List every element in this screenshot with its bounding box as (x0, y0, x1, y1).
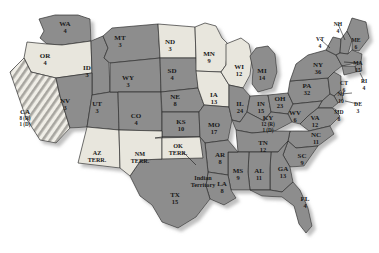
state-votes-PA: 32 (304, 89, 310, 96)
state-votes-NY: 36 (315, 68, 322, 75)
state-NE (161, 88, 204, 112)
state-label-KY: KY12 (R)1 (D) (261, 114, 275, 134)
state-abbr-DE: DE (354, 101, 362, 107)
state-SD (160, 58, 198, 92)
state-votes-MA: 15 (355, 67, 361, 73)
state-votes-RI: 4 (363, 85, 366, 91)
state-votes-DE: 3 (357, 108, 360, 114)
state-votes-NH: 4 (337, 28, 340, 34)
state-MT (103, 24, 160, 63)
state-label-IA: IA13 (210, 91, 218, 105)
state-votes-NC: 11 (313, 138, 319, 145)
state-votes-SC: 9 (300, 159, 303, 166)
us-map-svg: WA4OR4CA8 (R)1 (D)ID3NV3UT3MT3WY3CO4ND3S… (0, 0, 379, 253)
state-votes-IN: 15 (258, 107, 264, 114)
territory-line1-OK: OK (173, 142, 183, 149)
state-ND (158, 24, 196, 58)
state-label-IN: IN15 (257, 100, 265, 114)
territory-line2-AZ: TERR. (88, 156, 107, 163)
state-WY (110, 58, 161, 92)
state-votes-MD: 8 (338, 116, 341, 122)
state-votes-ID: 3 (85, 71, 88, 78)
state-votes-GA: 13 (280, 172, 286, 179)
state-votes-IA: 13 (211, 98, 217, 105)
state-votes-TN: 12 (260, 146, 266, 153)
state-votes-TX: 15 (172, 198, 178, 205)
state-votes-AR: 8 (218, 158, 221, 165)
state-abbr-CT: CT (340, 80, 348, 86)
state-votes-UT: 3 (95, 107, 98, 114)
territory-line1-NM: NM (135, 150, 145, 157)
state-votes-LA: 8 (220, 187, 223, 194)
state-label-VT: VT4 (316, 36, 324, 49)
state-votes-OH: 23 (277, 102, 283, 109)
territory-line2-IT: Territory (191, 181, 216, 188)
state-votes-d-KY: 1 (D) (262, 127, 273, 134)
state-votes-VT: 4 (319, 43, 322, 49)
state-votes-AL: 11 (256, 174, 262, 181)
state-label-PA: PA32 (303, 82, 312, 96)
territory-line1-AZ: AZ (93, 149, 102, 156)
state-label-NJ: NJ10 (338, 91, 345, 104)
leader-line-VT (320, 39, 330, 48)
state-votes-KS: 10 (178, 125, 184, 132)
state-votes-MS: 9 (236, 174, 239, 181)
state-votes-MI: 14 (259, 74, 266, 81)
state-votes-ND: 3 (168, 45, 171, 52)
state-label-IL: IL24 (236, 100, 244, 114)
state-label-CA: CA8 (R)1 (D) (19, 108, 30, 128)
state-votes-VA: 12 (312, 121, 318, 128)
state-votes-ME: 6 (355, 44, 358, 50)
state-votes-NJ: 10 (338, 98, 344, 104)
territory-line2-NM: TERR. (131, 157, 150, 164)
state-votes-d-CA: 1 (D) (19, 121, 30, 128)
state-votes-IL: 24 (237, 107, 244, 114)
state-votes-NV: 3 (63, 104, 66, 111)
state-CT (342, 66, 356, 75)
state-votes-MN: 9 (207, 57, 210, 64)
territory-line1-IT: Indian (194, 174, 212, 181)
state-votes-WI: 12 (236, 70, 242, 77)
state-label-DE: DE3 (354, 101, 362, 114)
state-label-RI: RI4 (361, 78, 367, 91)
state-votes-MT: 3 (118, 41, 121, 48)
state-votes-WY: 3 (126, 81, 129, 88)
state-abbr-ME: ME (351, 37, 360, 43)
electoral-map: WA4OR4CA8 (R)1 (D)ID3NV3UT3MT3WY3CO4ND3S… (0, 0, 379, 253)
state-MN (195, 23, 228, 72)
state-votes-MO: 17 (211, 128, 218, 135)
state-UT (87, 92, 119, 130)
state-votes-NE: 8 (173, 100, 176, 107)
territory-line2-OK: TERR. (169, 149, 188, 156)
